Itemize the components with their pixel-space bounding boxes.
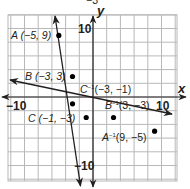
point-c-inverse: [70, 101, 75, 106]
label-c: C (−1, −3): [28, 112, 75, 124]
label-a-inverse: A−1(9, −5): [101, 131, 147, 143]
point-b-inverse: [111, 115, 116, 120]
label-b-inverse: B−1(3, −3): [105, 99, 150, 111]
y-tick-10: 10: [78, 22, 92, 36]
y-tick-neg10: −10: [74, 159, 95, 173]
x-axis-label: x: [177, 81, 186, 96]
y-axis-label: y: [96, 3, 105, 18]
label-c-inverse: C−1(−3, −1): [80, 83, 131, 95]
point-b: [70, 74, 75, 79]
x-tick-10: 10: [156, 99, 170, 113]
point-a-inverse: [152, 129, 157, 134]
coordinate-plane: −3 y x 10 −10 −10 10 A (−5, 9) B (−3, 3)…: [0, 0, 190, 189]
label-a: A (−5, 9): [10, 29, 51, 41]
x-tick-neg10: −10: [6, 99, 27, 113]
point-c: [84, 115, 89, 120]
point-a: [56, 33, 61, 38]
label-b: B (−3, 3): [25, 70, 66, 82]
